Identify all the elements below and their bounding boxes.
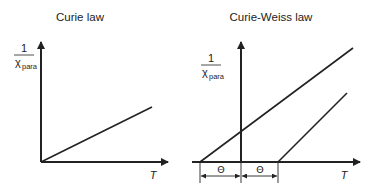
y-label-subscript: para [209, 72, 225, 81]
panel-title: Curie law [56, 11, 105, 23]
antiferromagnetic-line [200, 48, 353, 162]
y-label-symbol: χ [15, 56, 21, 68]
ferromagnetic-line [278, 93, 347, 162]
y-label-numerator: 1 [208, 52, 214, 64]
curie-law-diagram: Curie law 1 χ para T Curie-Weiss law 1 χ… [0, 0, 372, 191]
y-label-subscript: para [22, 62, 38, 71]
x-axis-label: T [341, 169, 349, 181]
panel-curie-law: Curie law 1 χ para T [14, 11, 168, 181]
y-label-numerator: 1 [21, 42, 27, 54]
curie-line [41, 107, 152, 162]
y-axis-label: 1 χ para [201, 52, 225, 81]
theta-label-left: Θ [217, 164, 224, 175]
panel-title: Curie-Weiss law [230, 11, 314, 23]
y-axis-label: 1 χ para [14, 42, 38, 71]
x-axis-label: T [150, 169, 158, 181]
panel-curie-weiss-law: Curie-Weiss law 1 χ para Θ Θ T [192, 11, 360, 183]
theta-label-right: Θ [256, 164, 263, 175]
y-label-symbol: χ [202, 66, 208, 78]
